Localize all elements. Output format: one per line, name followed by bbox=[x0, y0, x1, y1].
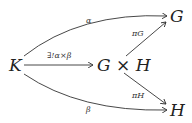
node-g: G bbox=[170, 8, 184, 25]
arrow-beta bbox=[24, 74, 167, 110]
label-pi-h: πH bbox=[132, 92, 144, 100]
arrow-pi-g bbox=[126, 22, 166, 56]
node-k: K bbox=[9, 57, 22, 74]
label-alpha: α bbox=[86, 17, 91, 25]
label-beta: β bbox=[86, 106, 91, 114]
node-h: H bbox=[170, 102, 185, 119]
arrow-pi-h bbox=[124, 73, 166, 104]
label-pi-g: πG bbox=[132, 30, 144, 38]
diagram-canvas: K G G × H H α ∃!α×β πG πH β bbox=[0, 0, 192, 123]
arrow-alpha bbox=[24, 16, 167, 56]
arrows-layer bbox=[0, 0, 192, 123]
node-g-times-h: G × H bbox=[97, 57, 150, 74]
label-unique-morphism: ∃!α×β bbox=[47, 52, 71, 60]
